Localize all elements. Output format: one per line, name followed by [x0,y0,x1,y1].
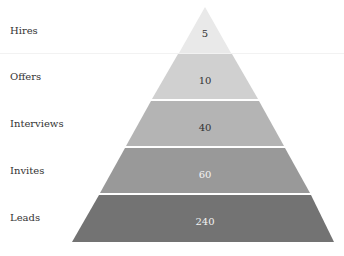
value-label-interviews: 40 [199,122,212,133]
value-label-hires: 5 [202,28,208,39]
value-label-leads: 240 [195,216,214,227]
funnel-chart: 5 10 40 60 240 [0,0,344,256]
value-label-invites: 60 [199,169,212,180]
value-label-offers: 10 [199,75,212,86]
